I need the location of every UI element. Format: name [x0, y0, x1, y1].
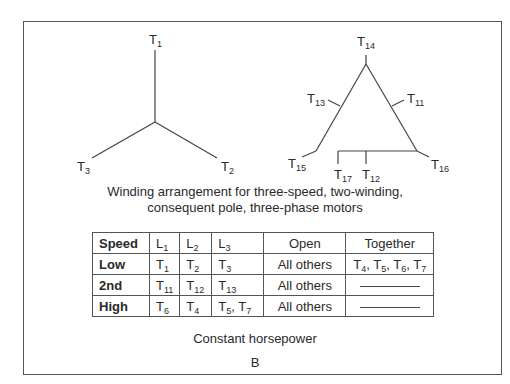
table-row: High T6 T4 T5, T7 All others — [93, 296, 434, 317]
terminal-label-t1: T1 — [149, 33, 162, 46]
cell-l2: T12 — [180, 275, 212, 296]
terminal-label-t11: T11 — [407, 92, 424, 105]
dash-line — [360, 286, 420, 287]
terminal-label-t2: T2 — [221, 160, 234, 173]
table-subtitle: Constant horsepower — [0, 331, 510, 347]
header-l2: L2 — [180, 233, 212, 254]
cell-open: All others — [264, 296, 346, 317]
cell-l3: T3 — [212, 254, 264, 275]
header-speed: Speed — [93, 233, 150, 254]
header-l1: L1 — [150, 233, 180, 254]
terminal-label-t12: T12 — [362, 168, 380, 181]
terminal-label-t15: T15 — [288, 157, 306, 170]
wye-connection — [92, 50, 217, 158]
terminal-label-t13: T13 — [307, 92, 325, 105]
figure-label: B — [0, 355, 510, 371]
cell-open: All others — [264, 254, 346, 275]
cell-open: All others — [264, 275, 346, 296]
cell-together-none — [346, 275, 434, 296]
caption-line-2: consequent pole, three-phase motors — [0, 200, 510, 216]
terminal-label-t17: T17 — [334, 168, 352, 181]
diagram-caption: Winding arrangement for three-speed, two… — [0, 184, 510, 216]
header-l3: L3 — [212, 233, 264, 254]
table-row: 2nd T11 T12 T13 All others — [93, 275, 434, 296]
cell-l2: T2 — [180, 254, 212, 275]
dash-line — [360, 307, 420, 308]
cell-speed: 2nd — [93, 275, 150, 296]
header-together: Together — [346, 233, 434, 254]
cell-speed: High — [93, 296, 150, 317]
cell-l1: T11 — [150, 275, 180, 296]
table-header-row: Speed L1 L2 L3 Open Together — [93, 233, 434, 254]
header-open: Open — [264, 233, 346, 254]
terminal-label-t14: T14 — [357, 35, 375, 48]
speed-connection-table: Speed L1 L2 L3 Open Together Low T1 T2 T… — [92, 232, 434, 317]
terminal-label-t16: T16 — [431, 158, 449, 171]
cell-l1: T6 — [150, 296, 180, 317]
cell-l3: T13 — [212, 275, 264, 296]
cell-speed: Low — [93, 254, 150, 275]
cell-together: T4, T5, T6, T7 — [346, 254, 434, 275]
terminal-label-t3: T3 — [77, 160, 90, 173]
table-row: Low T1 T2 T3 All others T4, T5, T6, T7 — [93, 254, 434, 275]
cell-l3: T5, T7 — [212, 296, 264, 317]
cell-l2: T4 — [180, 296, 212, 317]
cell-together-none — [346, 296, 434, 317]
caption-line-1: Winding arrangement for three-speed, two… — [0, 184, 510, 200]
cell-l1: T1 — [150, 254, 180, 275]
delta-connection — [302, 55, 429, 164]
